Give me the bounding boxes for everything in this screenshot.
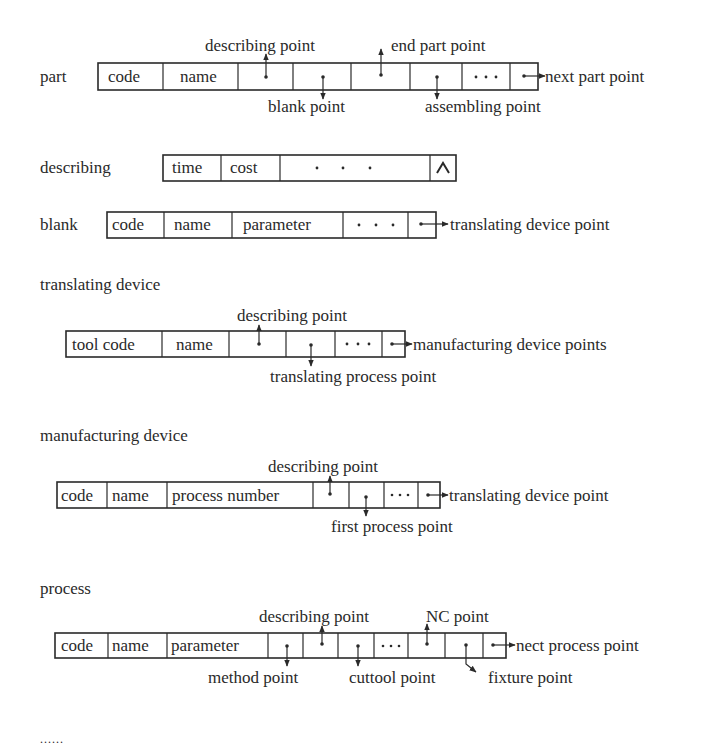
part-blank-point-label: blank point xyxy=(268,97,345,116)
describing-ellipsis xyxy=(316,167,372,170)
manufacturing-device-translating-device-point-label: translating device point xyxy=(449,486,609,505)
manufacturing-device-translating-device-pointer xyxy=(426,493,448,497)
part-record-box xyxy=(98,63,538,90)
manufacturing-device-ellipsis xyxy=(391,494,410,497)
process-describing-point-label: describing point xyxy=(259,607,369,626)
describing-record-box xyxy=(163,155,456,181)
record-blank: blank code name parameter translating de… xyxy=(40,212,610,238)
translating-device-ellipsis xyxy=(346,343,371,346)
null-terminator-icon xyxy=(437,163,449,173)
record-part: part code name describing point blank po… xyxy=(40,36,644,116)
translating-device-translating-process-pointer xyxy=(309,343,313,366)
record-translating-device: translating device tool code name descri… xyxy=(40,275,607,386)
part-end-part-point-label: end part point xyxy=(391,36,486,55)
translating-device-manufacturing-pointer xyxy=(390,342,412,346)
translating-device-describing-point-label: describing point xyxy=(237,306,347,325)
part-field-code: code xyxy=(108,67,140,86)
translating-device-describing-pointer xyxy=(257,325,261,346)
part-next-part-point-label: next part point xyxy=(545,67,644,86)
record-manufacturing-device: manufacturing device code name process n… xyxy=(40,426,609,536)
describing-field-time: time xyxy=(172,158,202,177)
record-process: process code name parameter method point xyxy=(40,579,639,687)
process-next-pointer xyxy=(491,643,515,647)
translating-device-field-tool-code: tool code xyxy=(72,335,135,354)
process-field-parameter: parameter xyxy=(171,636,239,655)
manufacturing-device-describing-point-label: describing point xyxy=(268,457,378,476)
process-method-point-label: method point xyxy=(208,668,298,687)
record-name-translating-device: translating device xyxy=(40,275,160,294)
part-assembling-pointer xyxy=(435,75,439,99)
blank-field-name: name xyxy=(174,215,211,234)
blank-ellipsis xyxy=(358,224,395,227)
record-name-describing: describing xyxy=(40,158,111,177)
part-next-pointer xyxy=(522,74,545,78)
part-blank-pointer xyxy=(321,75,325,99)
record-describing: describing time cost xyxy=(40,155,456,181)
translating-device-field-name: name xyxy=(176,335,213,354)
manufacturing-device-first-process-pointer xyxy=(364,495,368,516)
process-describing-pointer xyxy=(320,626,324,646)
process-next-process-point-label: nect process point xyxy=(516,636,639,655)
blank-translating-device-pointer xyxy=(419,222,448,226)
process-ellipsis xyxy=(382,645,401,648)
translating-device-translating-process-point-label: translating process point xyxy=(270,367,436,386)
manufacturing-device-first-process-point-label: first process point xyxy=(331,517,453,536)
process-nc-point-label: NC point xyxy=(426,607,489,626)
record-name-blank: blank xyxy=(40,215,78,234)
blank-translating-device-point-label: translating device point xyxy=(450,215,610,234)
process-nc-pointer xyxy=(425,624,429,646)
process-cuttool-point-label: cuttool point xyxy=(349,668,436,687)
process-cuttool-pointer xyxy=(356,644,360,666)
part-ellipsis xyxy=(475,76,498,79)
manufacturing-device-field-code: code xyxy=(61,486,93,505)
process-field-name: name xyxy=(112,636,149,655)
part-field-name: name xyxy=(180,67,217,86)
describing-field-cost: cost xyxy=(230,158,258,177)
record-name-process: process xyxy=(40,579,91,598)
manufacturing-device-describing-pointer xyxy=(328,476,332,496)
blank-field-parameter: parameter xyxy=(243,215,311,234)
part-describing-pointer xyxy=(264,54,268,79)
data-structure-diagram: part code name describing point blank po… xyxy=(0,0,710,745)
process-field-code: code xyxy=(61,636,93,655)
part-describing-point-label: describing point xyxy=(205,36,315,55)
manufacturing-device-field-process-number: process number xyxy=(172,486,280,505)
blank-field-code: code xyxy=(112,215,144,234)
part-assembling-point-label: assembling point xyxy=(425,97,541,116)
process-fixture-point-label: fixture point xyxy=(488,668,573,687)
record-name-part: part xyxy=(40,67,67,86)
continuation-ellipsis: ...... xyxy=(40,732,64,745)
translating-device-manufacturing-device-points-label: manufacturing device points xyxy=(413,335,607,354)
record-name-manufacturing-device: manufacturing device xyxy=(40,426,188,445)
manufacturing-device-field-name: name xyxy=(112,486,149,505)
process-method-pointer xyxy=(285,644,289,666)
